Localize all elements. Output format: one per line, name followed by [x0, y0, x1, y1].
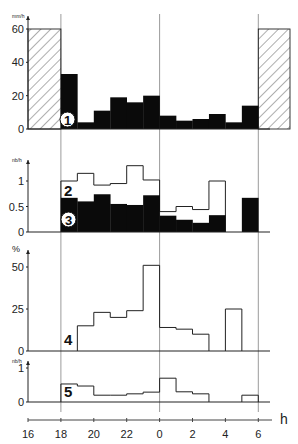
y-tick-label-1-2: 40	[12, 56, 24, 68]
y-tick-label-5-0: 0	[18, 396, 24, 408]
y-tick-label-4-2: 50	[12, 261, 24, 273]
bar-4-10	[225, 309, 241, 351]
bar-5-4	[127, 394, 143, 402]
y-tick-label-1-0: 0	[18, 123, 24, 135]
panel-5: nb/h015	[12, 358, 270, 408]
y-tick-label-4-1: 25	[12, 303, 24, 315]
y-tick-label-5-1: 1	[18, 362, 24, 374]
panel-1: mm/h02040601	[12, 13, 290, 135]
series-label-5: 5	[64, 383, 72, 400]
x-tick-label-0: 16	[22, 428, 34, 440]
x-tick-label-6: 4	[222, 428, 228, 440]
bar-1-4	[127, 102, 144, 129]
bar-4-1	[77, 326, 93, 351]
bar-4-7	[176, 329, 192, 351]
bar-5-7	[176, 392, 192, 402]
x-tick-label-3: 22	[121, 428, 133, 440]
bar-4-2	[94, 312, 110, 351]
y-tick-label-2-3-2: 1	[18, 175, 24, 187]
y-tick-label-4-0: 0	[18, 345, 24, 357]
bar-3-11	[242, 198, 259, 232]
bar-3-2	[94, 194, 111, 232]
series-label-1: 1	[64, 113, 71, 128]
hatched-bar-hatched-before	[28, 29, 61, 129]
y-axis-arrow-5	[26, 361, 30, 365]
y-tick-label-2-3-1: 0.5	[9, 201, 24, 213]
bar-1-11	[242, 106, 259, 129]
bar-4-4	[127, 311, 143, 351]
bar-5-2	[94, 395, 110, 402]
panel-2-3: nb/h00.5123	[9, 157, 270, 238]
bar-3-3	[110, 204, 127, 232]
bar-3-5	[143, 195, 160, 232]
bar-1-8	[193, 119, 210, 129]
bar-5-5	[143, 392, 159, 402]
y-tick-label-2-3-0: 0	[18, 226, 24, 238]
bar-1-10	[225, 122, 242, 129]
y-unit-label-2-3: nb/h	[12, 157, 22, 163]
y-axis-arrow-1	[26, 16, 30, 20]
bar-1-9	[209, 114, 226, 129]
bar-1-5	[143, 96, 160, 129]
chart: mm/h02040601nb/h00.5123%025504nb/h015 16…	[0, 0, 298, 444]
bar-3-7	[176, 220, 193, 232]
bar-1-1	[77, 122, 94, 129]
bar-3-9	[209, 215, 226, 232]
bar-5-8	[193, 394, 209, 402]
bar-4-5	[143, 265, 159, 351]
series-label-4: 4	[64, 331, 73, 348]
y-unit-label-1: mm/h	[12, 13, 25, 19]
hatched-bar-hatched-after	[258, 29, 290, 129]
bar-5-11	[242, 395, 258, 402]
series-label-2: 2	[64, 182, 72, 199]
x-tick-label-4: 0	[157, 428, 163, 440]
x-tick-label-5: 2	[189, 428, 195, 440]
panel-4: %025504	[12, 244, 270, 357]
bar-1-7	[176, 121, 193, 129]
x-axis-label: h	[280, 411, 288, 427]
x-tick-label-2: 20	[88, 428, 100, 440]
bar-3-4	[127, 205, 144, 232]
series-label-3: 3	[65, 213, 72, 228]
bar-3-8	[193, 223, 210, 232]
bar-5-3	[110, 395, 126, 402]
bar-1-3	[110, 97, 127, 129]
bar-5-6	[160, 378, 176, 402]
bar-3-6	[160, 216, 177, 232]
y-unit-label-4: %	[12, 244, 20, 254]
x-tick-label-7: 6	[255, 428, 261, 440]
y-axis-arrow-4	[26, 250, 30, 254]
y-axis-arrow-2-3	[26, 160, 30, 164]
bar-4-6	[160, 327, 176, 351]
bar-3-1	[77, 201, 94, 232]
bar-1-2	[94, 111, 111, 129]
bar-4-3	[110, 317, 126, 351]
y-tick-label-1-1: 20	[12, 90, 24, 102]
bar-4-8	[193, 334, 209, 351]
bar-1-6	[160, 116, 177, 129]
bar-5-1	[77, 386, 93, 402]
y-tick-label-1-3: 60	[12, 23, 24, 35]
x-tick-label-1: 18	[55, 428, 67, 440]
